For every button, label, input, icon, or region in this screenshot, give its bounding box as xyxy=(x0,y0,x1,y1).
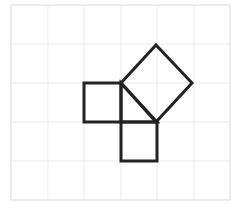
bottom-square xyxy=(121,122,157,161)
pythagoras-diagram xyxy=(0,0,241,210)
triangle xyxy=(121,83,157,122)
left-square xyxy=(84,83,121,122)
shapes xyxy=(84,45,192,161)
